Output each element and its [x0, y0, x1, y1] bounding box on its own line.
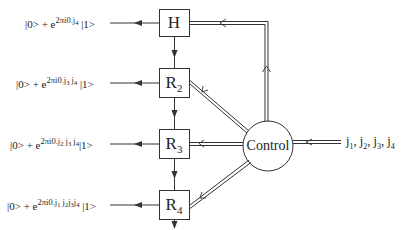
- arrow-down-icon: [172, 50, 178, 58]
- circuit-lines: [0, 0, 413, 230]
- arrow-left-icon: [134, 80, 142, 86]
- gate-r2-label: R2: [159, 74, 189, 94]
- arrow-down-icon: [172, 221, 178, 229]
- output-state-3: |0> + e2πi0.j2 j3 j4|1>: [10, 140, 93, 151]
- output-state-2: |0> + e2πi0.j3 j4 |1>: [16, 79, 94, 90]
- gate-h-label: H: [159, 14, 189, 31]
- arrow-left-icon: [134, 20, 142, 26]
- qft-circuit-diagram: |0> + e2πi0.j4 |1> |0> + e2πi0.j3 j4 |1>…: [0, 0, 413, 230]
- arrow-left-icon: [134, 202, 142, 208]
- gate-r3-label: R3: [159, 135, 189, 155]
- gate-r4-label: R4: [159, 196, 189, 216]
- arrow-left-icon: [134, 141, 142, 147]
- control-label: Control: [240, 138, 296, 154]
- arrow-down-icon: [172, 110, 178, 118]
- arrow-down-icon: [172, 171, 178, 179]
- input-bits-label: j1, j2, j3, j4: [346, 134, 395, 151]
- output-state-1: |0> + e2πi0.j4 |1>: [25, 19, 95, 30]
- output-state-4: |0> + e2πi0.j1 j2j3j4 |1>: [7, 201, 96, 212]
